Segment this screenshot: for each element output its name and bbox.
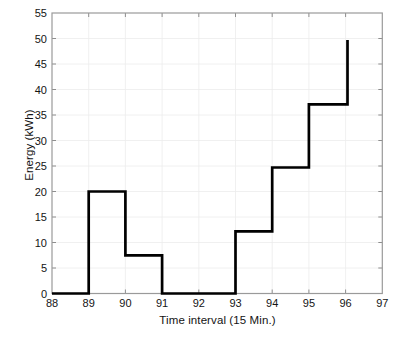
chart-figure: Energy (kWh) Time interval (15 Min.) 55 … bbox=[0, 0, 400, 338]
plot-background bbox=[52, 13, 382, 294]
plot-canvas bbox=[0, 0, 400, 338]
